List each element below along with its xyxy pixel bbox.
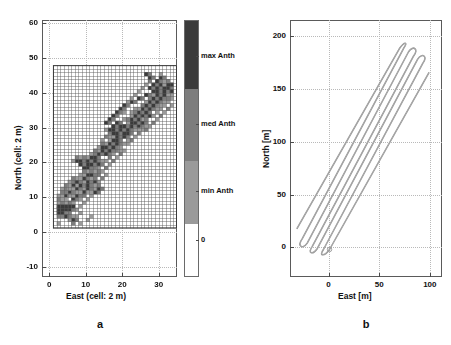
figure-root: North (cell: 2 m) East (cell: 2 m) max A… [0, 0, 451, 345]
panel-a-x-tick-label: 0 [35, 281, 63, 289]
panel-a-y-tickmark [42, 23, 46, 24]
panel-a-y-tickmark [42, 232, 46, 233]
panel-a-y-tickmark [42, 58, 46, 59]
panel-a-x-tickmark [159, 273, 160, 277]
panel-b-y-tick-label: 100 [260, 138, 286, 146]
panel-b: North [m] East [m] b 050100150200050100 [230, 0, 451, 345]
panel-b-y-tick-label: 0 [260, 243, 286, 251]
panel-a-x-tick-label: 20 [108, 281, 136, 289]
colorbar-tickmark [196, 56, 199, 57]
panel-b-x-axis-label: East [m] [338, 292, 372, 301]
panel-a-y-tickmark [42, 93, 46, 94]
panel-b-y-axis-label: North [m] [262, 130, 271, 168]
panel-b-y-tickmark [290, 89, 294, 90]
panel-b-y-tickmark [290, 247, 294, 248]
panel-b-y-tickmark [290, 36, 294, 37]
panel-a-x-tick-label: 10 [72, 281, 100, 289]
panel-a-y-tick-label: 10 [14, 193, 38, 201]
colorbar-tickmark [196, 124, 199, 125]
panel-b-y-tick-label: 150 [260, 85, 286, 93]
panel-a-y-tickmark [42, 197, 46, 198]
colorbar-segment [185, 224, 198, 276]
panel-a-x-axis-label: East (cell: 2 m) [66, 292, 126, 301]
survey-track-highlight [297, 43, 429, 254]
colorbar-segment [185, 21, 198, 89]
panel-b-y-tickmark [290, 142, 294, 143]
panel-b-x-tickmark [329, 273, 330, 277]
panel-a-y-tick-label: 40 [14, 89, 38, 97]
panel-a-y-tick-label: 60 [14, 19, 38, 27]
panel-a-x-tick-label: 30 [145, 281, 173, 289]
panel-a-y-tick-label: 30 [14, 124, 38, 132]
panel-a-y-tick-label: 0 [14, 228, 38, 236]
panel-b-x-tickmark [430, 273, 431, 277]
panel-b-x-tick-label: 100 [416, 281, 444, 289]
panel-a-x-tickmark [49, 273, 50, 277]
panel-b-x-tick-label: 0 [315, 281, 343, 289]
panel-a-y-tick-label: -10 [14, 263, 38, 271]
panel-a-x-tickmark [86, 273, 87, 277]
panel-a-y-tick-label: 20 [14, 158, 38, 166]
panel-a-y-tickmark [42, 162, 46, 163]
colorbar-tickmark [196, 240, 199, 241]
panel-a-letter: a [90, 318, 110, 330]
panel-a-x-tickmark [122, 273, 123, 277]
panel-b-letter: b [356, 318, 376, 330]
colorbar-segment [185, 161, 198, 224]
colorbar-tickmark [196, 191, 199, 192]
panel-b-y-tick-label: 50 [260, 191, 286, 199]
panel-a-y-tickmark [42, 267, 46, 268]
panel-a-y-tickmark [42, 128, 46, 129]
panel-a: North (cell: 2 m) East (cell: 2 m) max A… [0, 0, 230, 345]
panel-b-x-tickmark [379, 273, 380, 277]
colorbar-label: min Anth [201, 187, 233, 195]
panel-a-y-tick-label: 50 [14, 54, 38, 62]
survey-track [290, 20, 442, 277]
panel-b-y-tick-label: 200 [260, 32, 286, 40]
colorbar-label: 0 [201, 236, 205, 244]
anomaly-raster-canvas [42, 20, 177, 277]
panel-b-x-tick-label: 50 [365, 281, 393, 289]
colorbar [185, 21, 198, 276]
panel-b-y-tickmark [290, 195, 294, 196]
